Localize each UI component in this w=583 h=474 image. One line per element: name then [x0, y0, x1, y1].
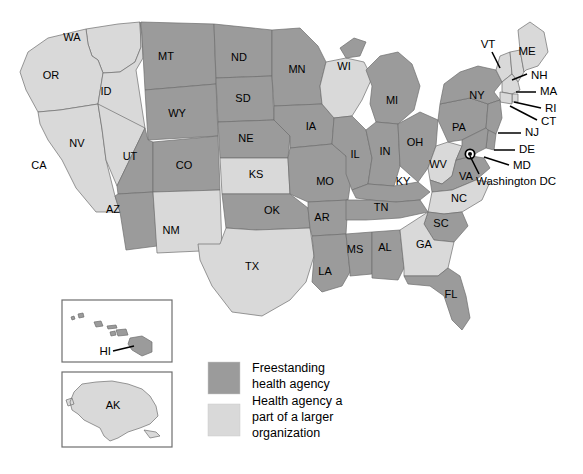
state-label-TN: TN	[374, 201, 389, 213]
state-label-WA: WA	[63, 31, 81, 43]
state-label-AL: AL	[378, 241, 391, 253]
state-label-SC: SC	[433, 217, 448, 229]
state-label-NM: NM	[162, 224, 179, 236]
alaska-label: AK	[106, 399, 121, 411]
state-FL[interactable]	[404, 268, 470, 330]
state-CT[interactable]	[500, 92, 512, 104]
state-label-CO: CO	[176, 159, 193, 171]
state-label-MO: MO	[316, 175, 334, 187]
hawaii-islands[interactable]	[71, 313, 152, 356]
state-label-KY: KY	[396, 175, 411, 187]
callout-label-CT: CT	[541, 115, 556, 127]
callout-label-ME: ME	[518, 45, 536, 57]
map-canvas: WAORIDCANVMTWYUTAZCONMNDSDNEKSOKTXMNIAMO…	[0, 0, 583, 474]
alaska-inset: AK	[62, 372, 172, 447]
state-NE[interactable]	[218, 120, 290, 158]
state-label-MS: MS	[347, 243, 364, 255]
state-NM[interactable]	[153, 190, 222, 253]
callout-label-VT: VT	[481, 38, 496, 50]
hawaii-island-maui	[116, 329, 128, 336]
state-label-ID: ID	[101, 85, 112, 97]
us-choropleth-map: WAORIDCANVMTWYUTAZCONMNDSDNEKSOKTXMNIAMO…	[0, 0, 583, 474]
callout-label-NJ: NJ	[525, 126, 539, 138]
callout-label-NH: NH	[531, 69, 548, 81]
state-label-TX: TX	[245, 260, 260, 272]
hawaii-island-molokai	[107, 325, 117, 329]
state-label-OH: OH	[407, 136, 424, 148]
legend-label-freestanding-line2: health agency	[252, 377, 331, 391]
hawaii-island-oahu	[94, 321, 103, 327]
state-RI[interactable]	[512, 94, 518, 102]
callout-leader-CT	[510, 106, 537, 120]
legend-label-freestanding-line1: Freestanding	[252, 361, 325, 375]
washington-dc-marker[interactable]	[465, 149, 476, 160]
state-AL[interactable]	[372, 230, 404, 280]
legend-label-part-of-larger-line1: Health agency a	[252, 394, 342, 408]
state-label-ND: ND	[231, 51, 247, 63]
hawaii-inset: HI	[62, 300, 172, 362]
state-label-IA: IA	[306, 120, 317, 132]
state-label-WI: WI	[337, 60, 350, 72]
alaska-landmass[interactable]	[66, 381, 160, 441]
hawaii-island-kauai	[78, 313, 84, 318]
state-label-NC: NC	[451, 192, 467, 204]
hawaii-island-niihau	[71, 316, 75, 320]
legend-label-part-of-larger-line3: organization	[252, 426, 320, 440]
legend-swatch-part-of-larger[interactable]	[208, 404, 240, 436]
state-label-UT: UT	[123, 150, 138, 162]
state-label-NV: NV	[69, 137, 85, 149]
legend: Freestanding health agency Health agency…	[208, 361, 342, 440]
state-label-PA: PA	[452, 121, 467, 133]
state-label-WV: WV	[429, 158, 447, 170]
state-label-AR: AR	[314, 211, 329, 223]
state-label-OK: OK	[264, 204, 281, 216]
state-label-VA: VA	[459, 170, 474, 182]
state-MT[interactable]	[141, 22, 216, 90]
state-NJ[interactable]	[486, 100, 502, 134]
callout-label-MA: MA	[540, 85, 558, 97]
state-label-SD: SD	[235, 92, 250, 104]
state-label-WY: WY	[168, 107, 186, 119]
state-label-MT: MT	[158, 50, 174, 62]
state-AZ[interactable]	[115, 192, 157, 250]
callout-label-Washington-DC: Washington DC	[476, 175, 556, 187]
state-label-FL: FL	[445, 288, 458, 300]
state-label-LA: LA	[318, 265, 332, 277]
callout-label-RI: RI	[545, 102, 557, 114]
callout-label-MD: MD	[513, 159, 531, 171]
state-label-CA: CA	[31, 159, 47, 171]
hawaii-label: HI	[100, 345, 112, 357]
state-label-NY: NY	[469, 89, 485, 101]
state-label-IN: IN	[380, 145, 391, 157]
legend-swatch-freestanding[interactable]	[208, 362, 240, 394]
state-label-MI: MI	[386, 94, 398, 106]
state-label-KS: KS	[249, 168, 264, 180]
callout-label-DE: DE	[519, 143, 535, 155]
state-LA[interactable]	[312, 234, 350, 292]
state-label-OR: OR	[43, 69, 60, 81]
callout-leader-RI	[514, 102, 541, 108]
legend-label-part-of-larger-line2: part of a larger	[252, 410, 333, 424]
state-label-GA: GA	[416, 238, 433, 250]
hawaii-island-lanai	[110, 331, 116, 336]
state-label-MN: MN	[288, 63, 305, 75]
state-label-NE: NE	[238, 132, 253, 144]
state-label-IL: IL	[350, 148, 359, 160]
state-label-AZ: AZ	[106, 203, 120, 215]
dc-marker-center-dot	[468, 152, 472, 156]
